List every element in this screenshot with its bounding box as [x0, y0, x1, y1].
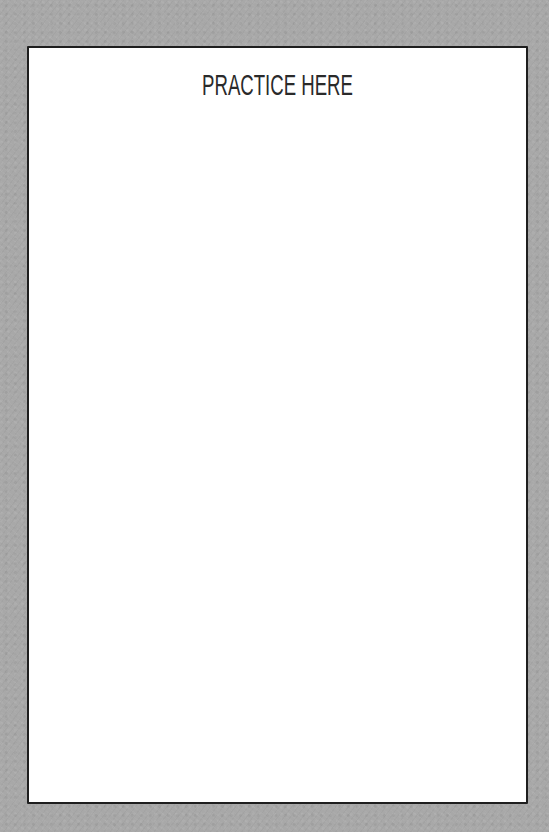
practice-sheet: PRACTICE HERE: [27, 46, 528, 804]
practice-area: [29, 108, 526, 802]
page-title: PRACTICE HERE: [123, 70, 431, 100]
